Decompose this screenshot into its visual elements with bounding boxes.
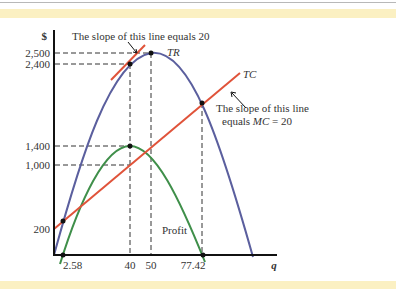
point-intersect-low [61,219,66,224]
arrow-top-shaft [128,42,136,52]
y-axis-label: $ [42,30,48,42]
point-tr-max [149,51,154,56]
x-tick-258: 2.58 [63,259,83,271]
point-tr-40 [128,62,133,67]
tr-label: TR [167,46,180,58]
point-intersect-high [200,101,205,106]
chart: $ 2,500 2,400 1,400 1,000 200 2.58 40 50… [0,0,396,295]
point-profit-max [128,144,133,149]
annotation-top: The slope of this line equals 20 [72,30,210,42]
x-tick-40: 40 [125,259,137,271]
y-tick-2400: 2,400 [25,58,50,70]
tr-curve [54,53,253,257]
y-tick-200: 200 [34,223,51,235]
y-tick-1000: 1,000 [25,159,50,171]
arrows [128,42,246,108]
annotation-right-line1: The slope of this line [216,102,309,114]
profit-label: Profit [162,224,187,236]
annotation-right-line2: equals MC = 20 [222,115,293,127]
y-tick-1400: 1,400 [25,140,50,152]
x-axis-label: q [271,259,277,271]
point-q7742 [201,253,206,258]
tc-line [54,73,240,229]
x-tick-50: 50 [146,259,158,271]
point-q258 [61,253,66,258]
tc-label: TC [243,68,257,80]
x-tick-7742: 77.42 [181,259,206,271]
